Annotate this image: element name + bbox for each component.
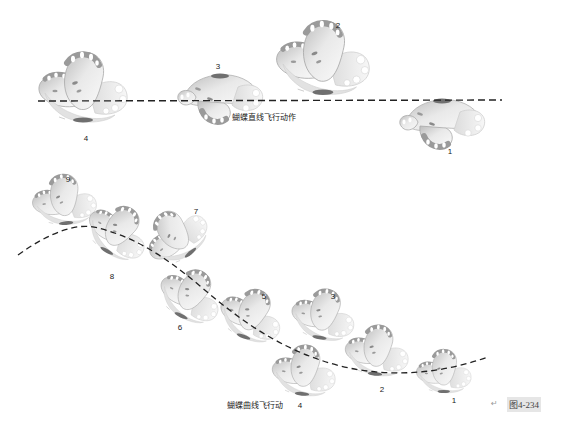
curve-flight-group [30, 171, 471, 398]
curve-butterfly-frame-4 [270, 342, 338, 398]
curve-butterfly-frame-3 [288, 284, 359, 345]
curve-frame-label: 7 [194, 207, 198, 216]
diagram-canvas [0, 0, 562, 431]
curve-frame-label: 3 [331, 292, 335, 301]
curve-frame-label: 2 [380, 385, 384, 394]
curve-butterfly-frame-5 [213, 279, 290, 349]
return-mark-icon: ↵ [491, 399, 498, 408]
straight-butterfly-frame-2 [277, 21, 370, 95]
butterfly-flight-diagram: 4321987653421 蝴蝶直线飞行动作 蝴蝶曲线飞行动 ↵ 图4-234 [0, 0, 562, 431]
straight-butterfly-frame-4 [39, 52, 127, 123]
figure-number: 图4-234 [507, 397, 541, 412]
straight-butterfly-frame-1 [400, 99, 485, 149]
curve-butterfly-frame-9 [30, 171, 98, 227]
straight-frame-label: 2 [336, 21, 340, 30]
curve-frame-label: 6 [178, 323, 182, 332]
curve-butterfly-frame-2 [343, 322, 411, 378]
curve-butterfly-frame-7 [135, 195, 216, 275]
curve-frame-label: 8 [110, 272, 114, 281]
curve-frame-label: 9 [66, 175, 70, 184]
straight-frame-label: 4 [84, 134, 88, 143]
straight-flight-caption: 蝴蝶直线飞行动作 [232, 111, 296, 122]
curve-frame-label: 1 [452, 396, 456, 405]
straight-frame-label: 1 [448, 147, 452, 156]
straight-frame-label: 3 [216, 62, 220, 71]
curve-frame-label: 4 [298, 401, 302, 410]
straight-flight-group [39, 21, 485, 149]
curve-frame-label: 5 [262, 292, 266, 301]
curve-flight-caption: 蝴蝶曲线飞行动 [227, 399, 283, 410]
curve-butterfly-frame-6 [152, 258, 231, 331]
